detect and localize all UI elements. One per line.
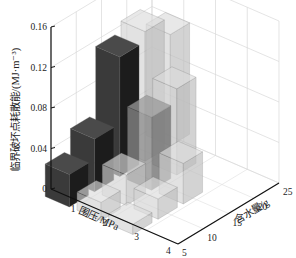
y-tick-label: 0.08: [30, 103, 47, 113]
y-tick-label: 0.12: [30, 63, 47, 73]
y-axis-label: 临界破坏点耗散能/(MJ·m⁻³): [9, 47, 22, 172]
y-tick-label: 0.16: [30, 22, 47, 32]
z-tick-label: 5: [182, 248, 187, 258]
bar-chart-3d: 00.040.080.120.16 1234 510152025 临界破坏点耗散…: [0, 0, 296, 258]
y-tick-label: 0.04: [30, 144, 47, 154]
x-tick-label: 1: [71, 204, 76, 214]
z-tick-label: 25: [283, 187, 293, 197]
bars: [45, 10, 202, 235]
y-tick-label: 0: [42, 184, 47, 194]
x-tick-label: 3: [134, 232, 139, 242]
z-tick-label: 10: [207, 233, 217, 243]
x-tick-label: 4: [166, 246, 171, 256]
